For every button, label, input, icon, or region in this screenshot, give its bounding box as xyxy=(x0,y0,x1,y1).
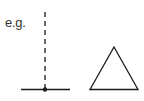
diagram-canvas xyxy=(0,0,144,101)
triangle-shape xyxy=(90,47,138,90)
intersection-dot xyxy=(43,87,47,91)
perpendicular-figure xyxy=(21,12,70,92)
